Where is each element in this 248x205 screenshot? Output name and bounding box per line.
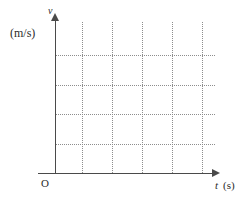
gridline-vertical — [202, 22, 203, 173]
y-axis-unit-label: (m/s) — [10, 27, 35, 39]
y-axis-symbol-label: v — [48, 6, 52, 16]
x-axis-symbol-label: t — [215, 180, 218, 191]
graph-screenshot: v (m/s) t (s) O — [0, 0, 248, 205]
x-axis-arrow-icon — [212, 169, 220, 177]
x-axis-unit-label: (s) — [223, 180, 235, 191]
gridline-vertical — [142, 22, 143, 173]
y-axis-line — [55, 19, 56, 174]
gridline-vertical — [172, 22, 173, 173]
gridline-vertical — [112, 22, 113, 173]
gridline-horizontal — [55, 144, 215, 145]
x-axis-line — [38, 173, 214, 174]
gridline-horizontal — [55, 55, 215, 56]
plot-area: v (m/s) t (s) O — [0, 0, 248, 205]
gridline-horizontal — [55, 114, 215, 115]
origin-label: O — [41, 178, 49, 189]
gridline-horizontal — [55, 85, 215, 86]
gridline-vertical — [82, 22, 83, 173]
